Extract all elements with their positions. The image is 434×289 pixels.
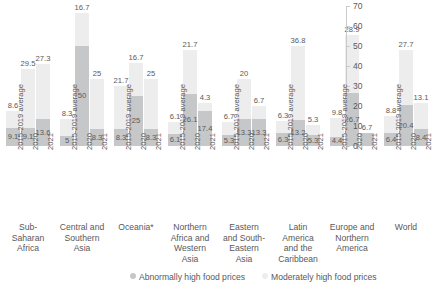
year-label: 2020 [86,133,94,150]
y-axis-tick-label: 10 [353,122,362,131]
year-label: 2015-2019 average [17,84,25,150]
y-axis: 010203040506070 [346,6,378,146]
year-label: 2020 [32,133,40,150]
year-label: 2021 [425,133,433,150]
bar-segment-moderately-high[interactable] [252,106,266,119]
year-label: 2021 [101,133,109,150]
year-label: 2015-2019 average [125,84,133,150]
y-axis-tick-label: 60 [353,22,362,31]
bar-segment-moderately-high[interactable] [198,103,212,112]
bar-group: 6.36.313.236.85.35.3 [276,6,320,146]
year-label: 2015-2019 average [71,84,79,150]
bar-value-label-moderately-high: 16.7 [69,4,95,12]
year-label: 2015-2019 average [287,84,295,150]
legend-label: Abnormally high food prices [139,272,245,282]
region-label: Northern Africa and Western Asia [167,222,213,264]
bar-group: 9.18.69.129.513.627.3 [6,6,50,146]
y-axis-tick-label: 40 [353,62,362,71]
bar-value-label-moderately-high: 27.3 [30,55,56,63]
year-label: 2020 [356,133,364,150]
year-label: 2020 [194,133,202,150]
y-axis-tick [346,6,350,7]
legend-item[interactable]: Moderately high food prices [262,271,377,282]
bar-segment-moderately-high[interactable] [36,64,50,119]
bar-group: 8.321.72516.78.325 [114,6,158,146]
bar-group: 6.16.126.121.717.44.3 [168,6,212,146]
year-label: 2015-2019 average [233,84,241,150]
bar-group: 5.36.713.32013.36.7 [222,6,266,146]
y-axis-tick [346,66,350,67]
year-label: 2021 [371,133,379,150]
y-axis-tick [346,26,350,27]
year-label: 2015-2019 average [341,84,349,150]
bar-value-label-moderately-high: 21.7 [177,41,203,49]
bar-value-label-moderately-high: 16.7 [123,54,149,62]
year-label: 2020 [302,133,310,150]
year-label: 2015-2019 average [395,84,403,150]
region-label: Latin America and the Caribbean [275,222,321,264]
bar-value-label-moderately-high: 25 [84,70,110,78]
region-label: Eastern and South-Eastern Asia [221,222,267,264]
year-label: 2020 [410,133,418,150]
y-axis-tick [346,46,350,47]
bar-group: 6.48.820.427.78.413.1 [384,6,428,146]
bar-value-label-moderately-high: 4.3 [192,94,218,102]
region-label: World [383,222,429,233]
legend-swatch-icon [262,273,268,279]
bar-value-label-moderately-high: 5.3 [300,116,326,124]
legend-label: Moderately high food prices [271,272,377,282]
year-label: 2015-2019 average [179,84,187,150]
region-label: Central and Southern Asia [59,222,105,254]
bar-value-label-moderately-high: 20 [231,70,257,78]
chart-legend: Abnormally high food pricesModerately hi… [0,271,380,285]
bar-segment-moderately-high[interactable] [90,79,104,129]
region-label: Sub-Saharan Africa [5,222,51,254]
year-label: 2020 [140,133,148,150]
region-label: Oceania* [113,222,159,233]
year-label: 2021 [47,133,55,150]
bar-value-label-moderately-high: 25 [138,70,164,78]
year-label: 2021 [155,133,163,150]
y-axis-tick-label: 70 [353,2,362,11]
y-axis-tick-label: 50 [353,42,362,51]
year-label: 2021 [209,133,217,150]
bar-segment-moderately-high[interactable] [414,103,428,129]
year-label: 2020 [248,133,256,150]
y-axis-tick-label: 20 [353,102,362,111]
bar-value-label-moderately-high: 6.7 [246,97,272,105]
legend-item[interactable]: Abnormally high food prices [130,271,245,282]
bar-segment-moderately-high[interactable] [144,79,158,129]
bar-value-label-moderately-high: 36.8 [285,37,311,45]
bar-value-label-moderately-high: 27.7 [393,41,419,49]
bar-value-label-moderately-high: 13.1 [408,94,434,102]
legend-swatch-icon [130,273,136,279]
bar-segment-moderately-high[interactable] [75,13,89,46]
bar-value-label-abnormally-high: 17.4 [192,125,218,133]
region-label: Europe and Northern America [329,222,375,254]
bar-group: 58.35016.78.325 [60,6,104,146]
year-label: 2021 [263,133,271,150]
year-label: 2021 [317,133,325,150]
y-axis-tick-label: 30 [353,82,362,91]
